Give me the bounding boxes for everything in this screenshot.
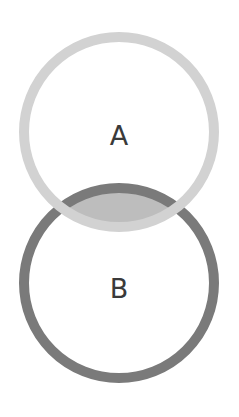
- venn-diagram: A B: [0, 0, 239, 417]
- set-b-label: B: [110, 273, 129, 304]
- set-a-label: A: [110, 120, 129, 151]
